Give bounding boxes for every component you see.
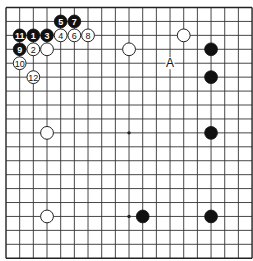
move-number: 8: [86, 31, 91, 41]
move-number: 4: [58, 31, 63, 41]
stone-circle: [205, 43, 218, 56]
move-number: 2: [31, 45, 36, 55]
move-number: 1: [31, 31, 36, 41]
stone-circle: [205, 71, 218, 84]
white-stone: 4: [54, 29, 67, 42]
stone-circle: [177, 29, 190, 42]
black-stone: [205, 210, 218, 223]
point-mark-label: A: [166, 56, 174, 70]
star-point: [127, 215, 130, 218]
white-stone: 12: [27, 71, 40, 84]
black-stone: 1: [27, 29, 40, 42]
black-stone: 7: [68, 15, 81, 28]
white-stone: [123, 43, 136, 56]
stone-circle: [123, 43, 136, 56]
go-board: 571113468921012 A: [0, 0, 253, 261]
white-stone: 2: [27, 43, 40, 56]
move-number: 10: [15, 59, 25, 69]
move-number: 7: [72, 17, 77, 27]
white-stone: [177, 29, 190, 42]
stone-circle: [136, 210, 149, 223]
stone-circle: [41, 126, 54, 139]
move-number: 9: [17, 45, 22, 55]
white-stone: 6: [68, 29, 81, 42]
black-stone: 11: [13, 29, 26, 42]
move-number: 3: [45, 31, 50, 41]
white-stone: 10: [13, 57, 26, 70]
star-point: [127, 131, 130, 134]
black-stone: 3: [41, 29, 54, 42]
move-number: 6: [72, 31, 77, 41]
black-stone: [136, 210, 149, 223]
black-stone: 9: [13, 43, 26, 56]
stone-circle: [41, 210, 54, 223]
white-stone: [41, 43, 54, 56]
white-stone: 8: [82, 29, 95, 42]
white-stone: [41, 210, 54, 223]
black-stone: 5: [54, 15, 67, 28]
stone-circle: [41, 43, 54, 56]
black-stone: [205, 43, 218, 56]
stone-circle: [205, 210, 218, 223]
black-stone: [205, 126, 218, 139]
black-stone: [205, 71, 218, 84]
move-number: 12: [28, 73, 38, 83]
marks-layer: A: [166, 56, 175, 70]
white-stone: [41, 126, 54, 139]
move-number: 5: [58, 17, 63, 27]
stone-circle: [205, 126, 218, 139]
move-number: 11: [15, 31, 25, 41]
